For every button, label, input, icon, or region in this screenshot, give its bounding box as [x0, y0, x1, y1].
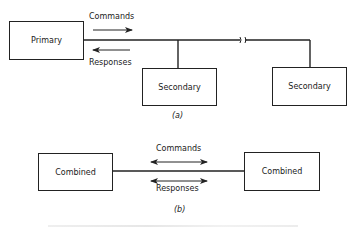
- secondary-station-box-2: Secondary: [272, 67, 347, 106]
- caption-a: (a): [172, 111, 183, 120]
- faint-figure-caption-line: [48, 225, 298, 227]
- primary-station-box: Primary: [9, 21, 84, 60]
- responses-label-a: Responses: [89, 58, 132, 67]
- responses-label-b: Responses: [156, 184, 199, 193]
- combined-station-box-1: Combined: [38, 153, 113, 191]
- combined-label-1: Combined: [55, 168, 96, 177]
- secondary-label-2: Secondary: [288, 82, 330, 91]
- commands-label-b: Commands: [156, 144, 201, 153]
- secondary-label-1: Secondary: [158, 83, 200, 92]
- primary-label: Primary: [31, 36, 62, 45]
- combined-label-2: Combined: [262, 167, 303, 176]
- commands-label-a: Commands: [89, 12, 134, 21]
- caption-b: (b): [174, 205, 185, 214]
- secondary-station-box-1: Secondary: [142, 68, 217, 106]
- combined-station-box-2: Combined: [244, 152, 320, 191]
